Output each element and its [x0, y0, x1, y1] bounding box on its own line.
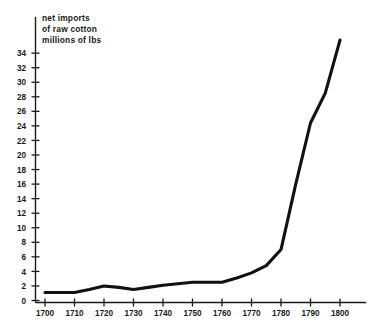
x-tick-label: 1740: [154, 309, 173, 318]
y-tick-label: 22: [17, 137, 27, 146]
x-tick-label: 1750: [183, 309, 202, 318]
x-tick-label: 1730: [124, 309, 143, 318]
x-tick-label: 1760: [213, 309, 232, 318]
y-tick-label: 16: [17, 180, 27, 189]
x-tick-label: 1720: [95, 309, 114, 318]
y-tick-label: 30: [17, 78, 27, 87]
y-tick-label: 28: [17, 93, 27, 102]
y-tick-label: 34: [17, 49, 27, 58]
x-tick-label: 1770: [242, 309, 261, 318]
y-tick-label: 8: [21, 238, 26, 247]
data-series-group: [45, 40, 340, 292]
y-tick-label: 6: [21, 253, 26, 262]
chart-figure: net imports of raw cotton millions of lb…: [0, 0, 382, 334]
y-tick-label: 0: [21, 297, 26, 306]
x-axis: 1700171017201730174017501760177017801790…: [36, 299, 367, 319]
y-tick-label: 24: [17, 122, 27, 131]
y-tick-label: 26: [17, 107, 27, 116]
x-tick-label: 1800: [331, 309, 350, 318]
x-tick-label: 1700: [36, 309, 55, 318]
x-tick-label: 1780: [272, 309, 291, 318]
y-tick-label: 2: [21, 282, 26, 291]
y-tick-label: 32: [17, 64, 27, 73]
y-tick-label: 20: [17, 151, 27, 160]
y-tick-label: 10: [17, 224, 27, 233]
y-tick-label: 14: [17, 195, 27, 204]
y-tick-label: 4: [21, 268, 26, 277]
x-tick-label: 1790: [301, 309, 320, 318]
line-chart-plot: 0246810121416182022242628303234 17001710…: [0, 0, 382, 334]
y-axis: 0246810121416182022242628303234: [17, 17, 40, 306]
x-axis-ticks: 1700171017201730174017501760177017801790…: [36, 299, 350, 319]
x-tick-label: 1710: [65, 309, 84, 318]
data-line-net-imports: [45, 40, 340, 292]
y-tick-label: 18: [17, 166, 27, 175]
y-tick-label: 12: [17, 209, 27, 218]
